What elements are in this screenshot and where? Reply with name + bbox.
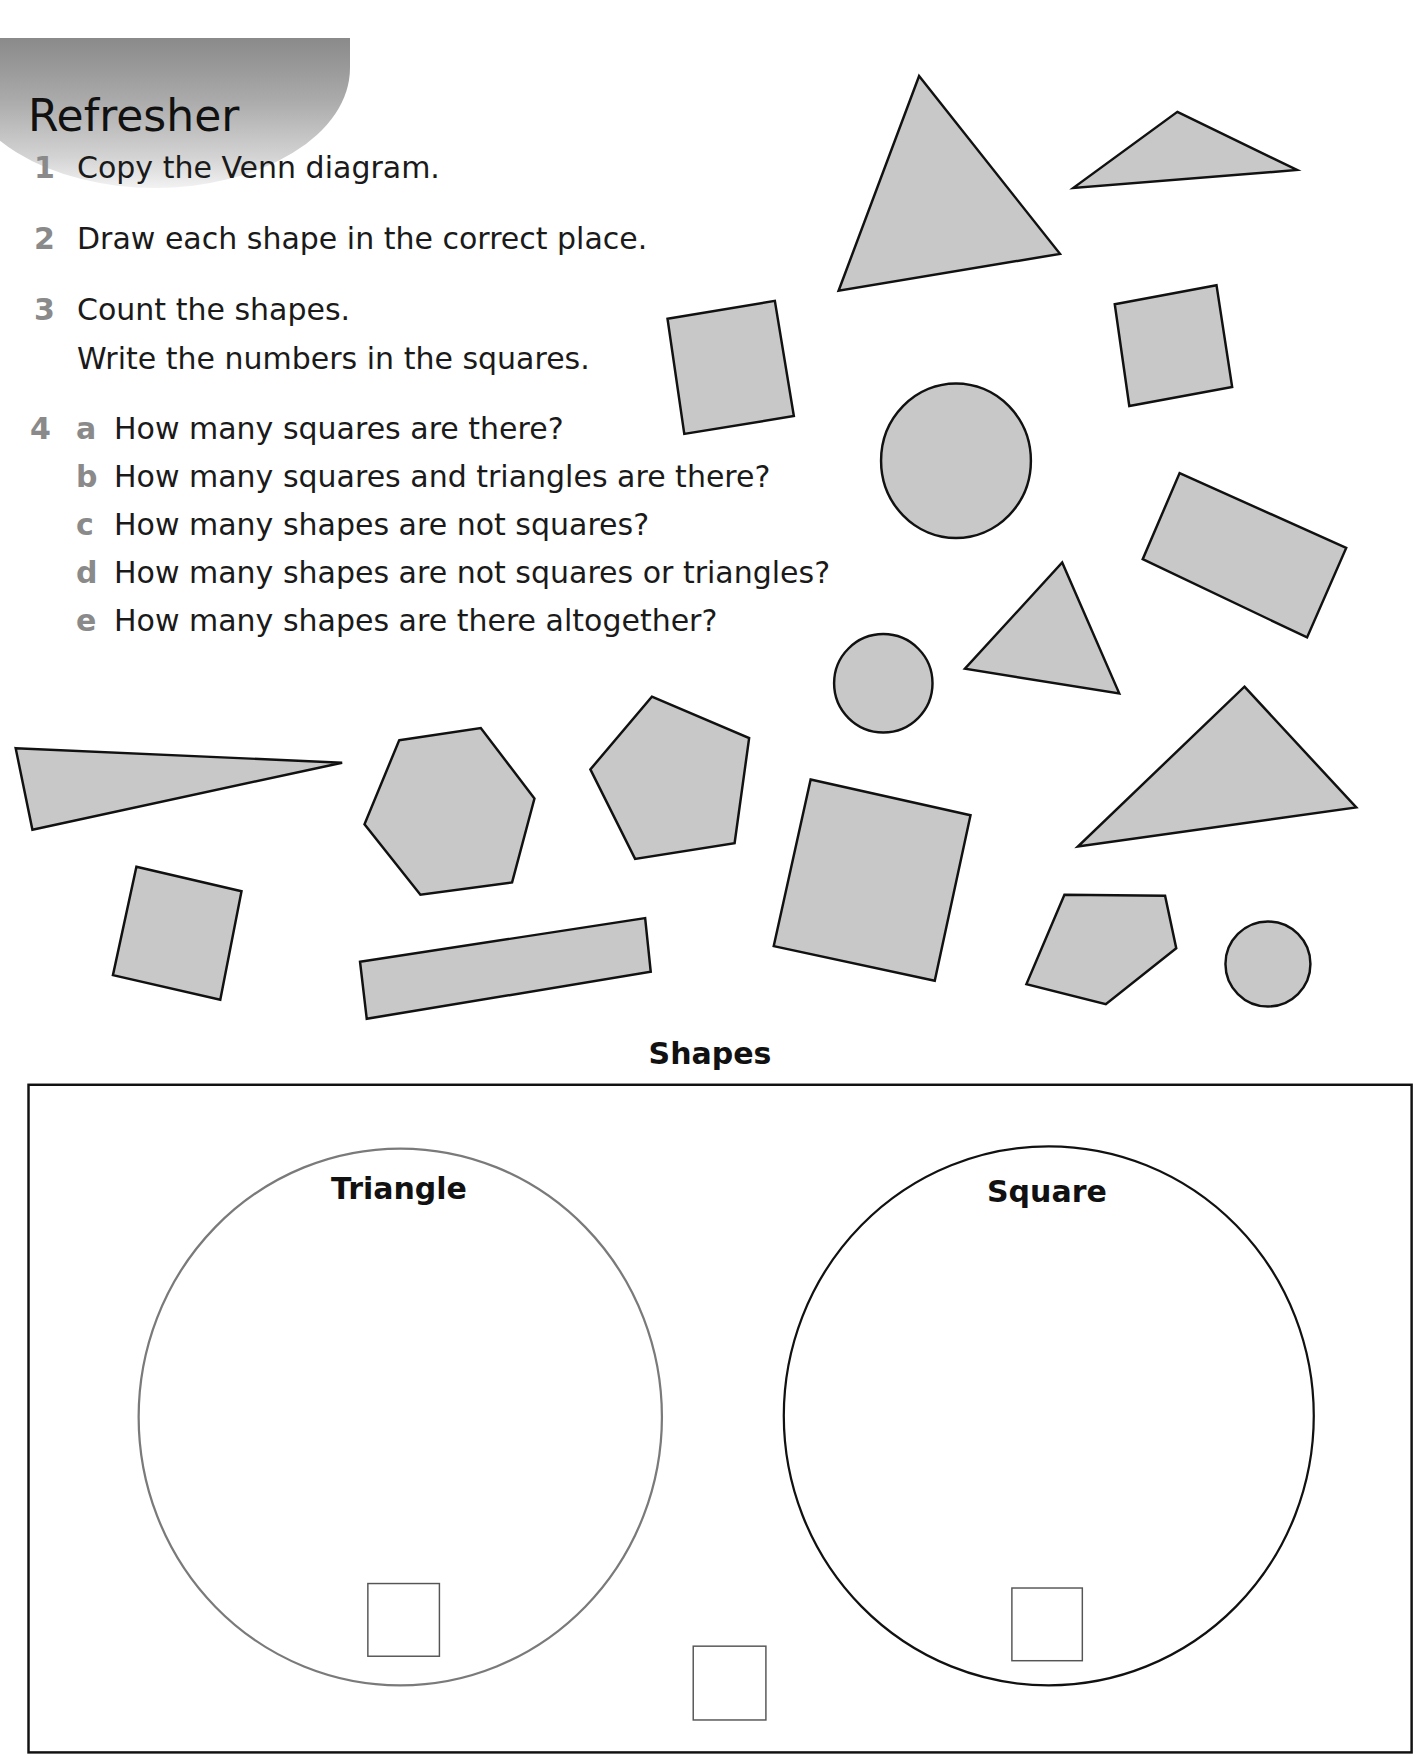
triangle-shape (1073, 112, 1297, 188)
pentagon-shape (590, 697, 749, 859)
rectangle-shape (1143, 473, 1346, 637)
triangle-shape (1078, 687, 1356, 847)
pentagon-shape (1026, 895, 1176, 1005)
triangle-shape (16, 748, 342, 830)
shapes-canvas (0, 0, 1420, 1758)
count-box-square[interactable] (1012, 1588, 1082, 1661)
count-box-outside[interactable] (693, 1646, 766, 1720)
venn-label-square: Square (987, 1174, 1107, 1209)
square-shape (774, 779, 971, 980)
triangle-shape (965, 563, 1119, 694)
count-box-triangle[interactable] (368, 1584, 440, 1657)
circle-shape (834, 634, 932, 732)
triangle-shape (839, 76, 1060, 291)
square-shape (113, 867, 242, 1000)
square-shape (668, 301, 794, 434)
worksheet-page: Refresher 1 Copy the Venn diagram. 2 Dra… (0, 0, 1420, 1758)
circle-shape (1225, 921, 1310, 1006)
rectangle-shape (360, 918, 651, 1019)
hexagon-shape (365, 728, 535, 895)
venn-title: Shapes (0, 1036, 1420, 1071)
venn-label-triangle: Triangle (331, 1171, 467, 1206)
circle-shape (881, 384, 1031, 538)
square-shape (1115, 285, 1232, 406)
